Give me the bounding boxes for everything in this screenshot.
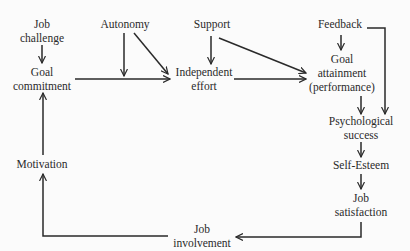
node-label: attainment bbox=[309, 66, 375, 80]
node-label: Feedback bbox=[318, 17, 362, 31]
node-job-involvement: Job involvement bbox=[173, 222, 231, 250]
node-independent-effort: Independent effort bbox=[176, 65, 233, 93]
node-psychological-success: Psychological success bbox=[329, 114, 394, 142]
node-label: success bbox=[329, 128, 394, 142]
node-label: Job bbox=[335, 191, 387, 205]
node-label: involvement bbox=[173, 236, 231, 250]
node-label: Motivation bbox=[16, 157, 67, 171]
node-goal-commitment: Goal commitment bbox=[13, 65, 71, 93]
arrow-jobsatisfaction-jobinvolvement bbox=[236, 222, 361, 237]
node-label: Autonomy bbox=[100, 17, 149, 31]
node-label: Goal bbox=[13, 65, 71, 79]
node-label: Independent bbox=[176, 65, 233, 79]
node-label: effort bbox=[176, 79, 233, 93]
node-job-challenge: Job challenge bbox=[20, 17, 64, 45]
motivation-cycle-diagram: Job challenge Goal commitment Autonomy S… bbox=[0, 0, 410, 251]
node-label: Job bbox=[20, 17, 64, 31]
node-goal-attainment: Goal attainment (performance) bbox=[309, 52, 375, 94]
node-motivation: Motivation bbox=[16, 157, 67, 171]
node-job-satisfaction: Job satisfaction bbox=[335, 191, 387, 219]
arrow-autonomy-independenteffort bbox=[134, 33, 168, 74]
node-label: Job bbox=[173, 222, 231, 236]
node-label: challenge bbox=[20, 31, 64, 45]
node-label: Psychological bbox=[329, 114, 394, 128]
node-label: commitment bbox=[13, 79, 71, 93]
node-autonomy: Autonomy bbox=[100, 17, 149, 31]
arrow-jobinvolvement-motivation bbox=[43, 174, 168, 236]
node-label: Goal bbox=[309, 52, 375, 66]
node-label: (performance) bbox=[309, 80, 375, 94]
node-label: Support bbox=[194, 17, 230, 31]
node-support: Support bbox=[194, 17, 230, 31]
node-self-esteem: Self-Esteem bbox=[333, 158, 389, 172]
node-label: Self-Esteem bbox=[333, 158, 389, 172]
node-feedback: Feedback bbox=[318, 17, 362, 31]
node-label: satisfaction bbox=[335, 205, 387, 219]
